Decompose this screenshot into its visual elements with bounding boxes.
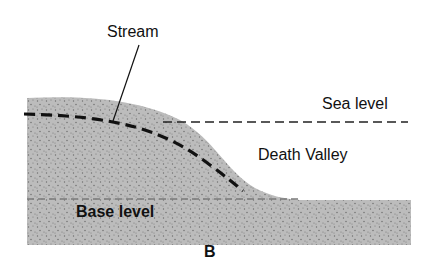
cross-section-diagram <box>0 0 439 278</box>
base-level-label: Base level <box>76 204 154 220</box>
death-valley-label: Death Valley <box>258 147 348 163</box>
stream-label: Stream <box>107 24 159 40</box>
sea-level-label: Sea level <box>322 96 388 112</box>
panel-label: B <box>204 244 216 260</box>
